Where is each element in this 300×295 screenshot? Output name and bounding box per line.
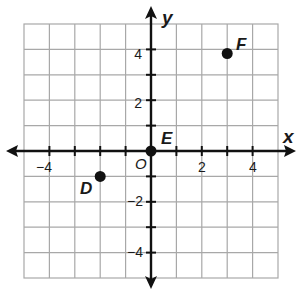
x-tick-label-2: 2 bbox=[198, 159, 206, 175]
y-tick-label-neg2: −2 bbox=[127, 193, 143, 209]
point-e-marker bbox=[146, 146, 157, 157]
origin-label: O bbox=[135, 155, 147, 172]
point-f-label: F bbox=[236, 35, 247, 54]
x-axis-label: x bbox=[282, 126, 295, 147]
point-d-marker bbox=[95, 171, 106, 182]
y-tick-label-neg4: −4 bbox=[127, 244, 143, 260]
y-tick-label-2: 2 bbox=[134, 95, 142, 111]
point-f: F bbox=[222, 35, 247, 59]
point-e: E bbox=[146, 129, 174, 157]
x-tick-label-4: 4 bbox=[249, 159, 257, 175]
y-tick-label-4: 4 bbox=[134, 46, 142, 62]
y-axis-label: y bbox=[161, 7, 174, 28]
point-d: D bbox=[80, 171, 106, 198]
point-f-marker bbox=[222, 48, 233, 59]
x-tick-label-neg4: −4 bbox=[36, 159, 52, 175]
point-e-label: E bbox=[161, 129, 173, 148]
point-d-label: D bbox=[80, 179, 92, 198]
coordinate-plane: y x −4 2 4 4 2 −2 −4 O D E F bbox=[0, 0, 300, 295]
